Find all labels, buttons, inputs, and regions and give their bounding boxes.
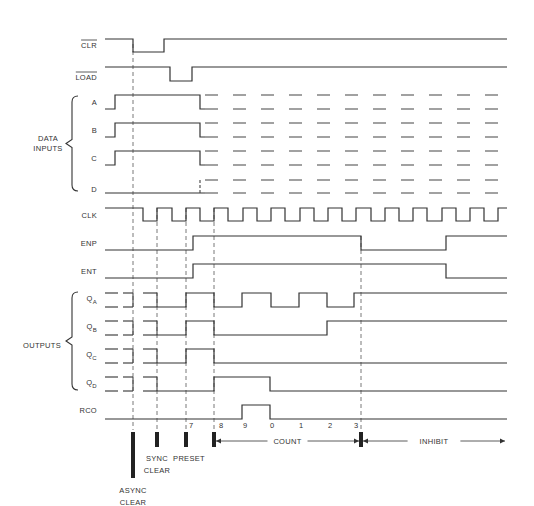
waveform-qc — [157, 349, 507, 363]
count-digit: 7 — [189, 421, 193, 430]
event-markers: ASYNCCLEARSYNCCLEARPRESET — [119, 432, 363, 506]
vertical-guides — [133, 44, 361, 430]
count-digit: 3 — [354, 421, 358, 430]
waveform-ent — [105, 264, 507, 278]
signal-label-b: B — [92, 126, 97, 135]
marker-count-end — [359, 432, 363, 447]
marker-preset — [184, 432, 188, 447]
count-digit: 1 — [299, 421, 303, 430]
brace-data — [66, 96, 78, 191]
span-label-count: COUNT — [273, 437, 301, 446]
waveform-qb — [157, 321, 507, 335]
timing-diagram: CLRLOADABCDCLKENPENTQAQBQCQDRCO DATAINPU… — [0, 0, 534, 506]
signal-label-rco: RCO — [79, 406, 97, 415]
waveform-c — [105, 151, 205, 165]
waveforms — [105, 39, 507, 419]
span-label-inhibit: INHIBIT — [420, 437, 449, 446]
count-digit: 0 — [270, 421, 274, 430]
waveform-rco — [105, 405, 507, 419]
signal-label-c: C — [91, 154, 97, 163]
group-label-outputs: OUTPUTS — [23, 341, 61, 350]
signal-label-clk: CLK — [82, 211, 98, 220]
arrow-left-icon — [363, 439, 368, 444]
signal-label-qd: QD — [86, 378, 97, 389]
marker-count-start — [212, 432, 216, 447]
marker-async-clear — [131, 432, 135, 478]
marker-label-sync-clear: SYNC — [146, 454, 168, 463]
signal-groups: DATAINPUTSOUTPUTS — [23, 96, 78, 390]
waveform-qa — [157, 293, 507, 307]
arrow-right-icon — [354, 439, 359, 444]
group-label-data: INPUTS — [33, 144, 62, 153]
marker-label-async-clear: ASYNC — [119, 486, 147, 495]
marker-label-async-clear: CLEAR — [120, 498, 147, 506]
signal-label-ent: ENT — [81, 267, 97, 276]
arrow-left-icon — [216, 439, 221, 444]
waveform-enp — [105, 236, 507, 250]
waveform-b — [105, 123, 205, 137]
brace-outputs — [66, 292, 78, 390]
count-digit: 9 — [243, 421, 247, 430]
waveform-qd — [157, 377, 507, 391]
signal-label-enp: ENP — [81, 239, 97, 248]
waveform-clk — [105, 208, 507, 221]
waveform-clr — [105, 39, 507, 52]
signal-labels: CLRLOADABCDCLKENPENTQAQBQCQDRCO — [75, 40, 97, 415]
signal-label-a: A — [92, 98, 97, 107]
signal-label-qa: QA — [87, 294, 97, 305]
marker-label-sync-clear: CLEAR — [144, 466, 171, 475]
waveform-a — [105, 95, 205, 109]
signal-label-qb: QB — [87, 322, 97, 333]
count-digit: 2 — [328, 421, 332, 430]
signal-label-clr: CLR — [81, 41, 97, 50]
count-digit: 8 — [219, 421, 223, 430]
signal-label-load: LOAD — [75, 73, 97, 82]
signal-label-d: D — [91, 185, 97, 194]
marker-sync-clear — [155, 432, 159, 447]
marker-label-preset: PRESET — [173, 454, 205, 463]
signal-label-qc: QC — [86, 350, 97, 361]
arrow-right-icon — [500, 439, 505, 444]
waveform-load — [105, 67, 507, 81]
group-label-data: DATA — [38, 134, 58, 143]
